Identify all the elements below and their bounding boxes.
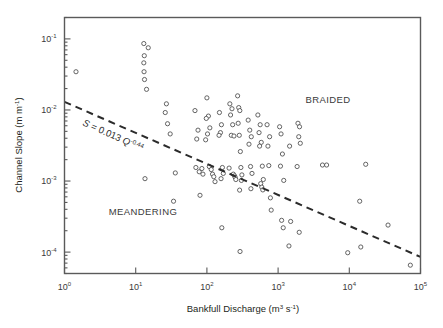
data-point xyxy=(297,125,301,129)
data-point xyxy=(267,163,271,167)
data-point xyxy=(238,188,242,192)
data-point xyxy=(142,61,146,65)
data-point xyxy=(261,177,265,181)
data-point xyxy=(346,251,350,255)
data-point xyxy=(258,144,262,148)
braided-region-label: BRAIDED xyxy=(305,94,350,105)
data-point xyxy=(269,208,273,212)
data-point xyxy=(282,178,286,182)
data-point xyxy=(268,196,272,200)
data-point xyxy=(246,118,250,122)
data-point xyxy=(268,135,272,139)
data-point xyxy=(265,123,269,127)
data-point xyxy=(205,132,209,136)
data-point xyxy=(204,138,208,142)
data-point xyxy=(234,177,238,181)
data-point xyxy=(208,126,212,130)
data-point xyxy=(213,180,217,184)
data-point xyxy=(238,108,242,112)
data-point xyxy=(266,144,270,148)
data-point xyxy=(230,107,234,111)
y-axis-title: Channel Slope (m m-1) xyxy=(13,97,25,192)
data-point xyxy=(250,171,254,175)
data-point xyxy=(219,177,223,181)
data-point xyxy=(280,152,284,156)
data-point xyxy=(142,54,146,58)
data-point xyxy=(74,70,78,74)
plot-background xyxy=(0,0,443,328)
data-point xyxy=(320,163,324,167)
data-point xyxy=(163,110,167,114)
data-point xyxy=(193,108,197,112)
data-point xyxy=(142,70,146,74)
data-point xyxy=(219,123,223,127)
figure-container: 10-110-210-310-4 100101102103104105 BRAI… xyxy=(0,0,443,328)
data-point xyxy=(256,113,260,117)
data-point xyxy=(146,46,150,50)
data-point xyxy=(231,123,235,127)
data-point xyxy=(239,165,243,169)
data-point xyxy=(297,230,301,234)
data-point xyxy=(298,141,302,145)
meandering-region-label: MEANDERING xyxy=(109,206,177,217)
data-point xyxy=(249,135,253,139)
data-point xyxy=(200,166,204,170)
data-point xyxy=(240,173,244,177)
data-point xyxy=(287,244,291,248)
data-point xyxy=(227,166,231,170)
data-point xyxy=(195,137,199,141)
data-point xyxy=(248,164,252,168)
data-point xyxy=(325,163,329,167)
y-axis-title-text: Channel Slope (m m-1) xyxy=(13,97,25,192)
data-point xyxy=(236,121,240,125)
data-point xyxy=(358,199,362,203)
data-point xyxy=(408,263,412,267)
data-point xyxy=(228,113,232,117)
data-point xyxy=(257,131,261,135)
scatter-plot: 10-110-210-310-4 100101102103104105 BRAI… xyxy=(0,0,443,328)
data-point xyxy=(278,164,282,168)
data-point xyxy=(359,245,363,249)
data-point xyxy=(237,133,241,137)
data-point xyxy=(386,223,390,227)
data-point xyxy=(212,175,216,179)
data-point xyxy=(164,102,168,106)
x-axis-title: Bankfull Discharge (m3 s-1) xyxy=(187,303,299,315)
data-point xyxy=(228,102,232,106)
data-point xyxy=(209,167,213,171)
data-point xyxy=(165,122,169,126)
data-point xyxy=(287,144,291,148)
data-point xyxy=(247,142,251,146)
y-axis-title-tail: ) xyxy=(13,97,24,100)
data-point xyxy=(198,193,202,197)
data-point xyxy=(196,128,200,132)
data-point xyxy=(238,249,242,253)
data-point xyxy=(238,149,242,153)
data-point xyxy=(279,132,283,136)
data-point xyxy=(217,133,221,137)
data-point xyxy=(278,125,282,129)
data-point xyxy=(144,87,148,91)
data-point xyxy=(281,226,285,230)
data-point xyxy=(220,226,224,230)
data-point xyxy=(142,77,146,81)
data-point xyxy=(289,219,293,223)
x-axis-title-tail: ) xyxy=(296,303,299,314)
data-point xyxy=(204,116,208,120)
data-point xyxy=(260,164,264,168)
data-point xyxy=(194,165,198,169)
data-point xyxy=(295,164,299,168)
data-point xyxy=(249,187,253,191)
data-point xyxy=(258,123,262,127)
x-axis-title-main: Bankfull Discharge (m xyxy=(187,303,280,314)
data-point xyxy=(201,172,205,176)
data-point xyxy=(168,132,172,136)
data-point xyxy=(232,134,236,138)
data-point xyxy=(173,171,177,175)
data-point xyxy=(364,162,368,166)
y-axis-title-main: Channel Slope (m m xyxy=(13,106,24,193)
data-point xyxy=(248,128,252,132)
data-point xyxy=(236,94,240,98)
data-point xyxy=(171,199,175,203)
data-point xyxy=(142,41,146,45)
